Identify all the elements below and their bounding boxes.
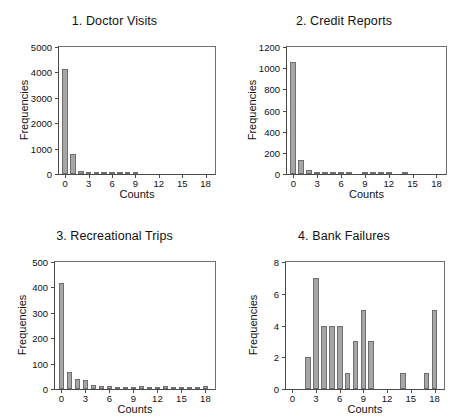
x-tick-label: 0 [290,393,295,404]
bar [337,326,343,390]
bar [203,386,209,389]
y-tick-label: 2 [231,352,279,363]
x-tick-mark [135,175,136,178]
bar [70,154,76,174]
y-tick-mark [55,47,58,48]
x-tick-mark [413,175,414,178]
x-tick-mark [436,175,437,178]
y-tick-mark [55,149,58,150]
y-tick-mark [283,89,286,90]
bar-series [286,262,444,389]
x-tick-mark [157,390,158,393]
x-tick-mark [61,390,62,393]
x-tick-label: 9 [361,393,366,404]
bar [290,62,296,174]
bar [362,172,368,174]
x-tick-label: 15 [176,393,187,404]
x-tick-mark [205,390,206,393]
x-tick-label: 15 [406,393,417,404]
y-tick-label: 6 [231,288,279,299]
bar [94,172,100,174]
y-tick-label: 1000 [231,63,280,74]
x-tick-mark [159,175,160,178]
plot-area [285,261,445,390]
plot-area [54,261,216,390]
bar [75,379,81,389]
y-tick-layer: 02468 [229,205,285,420]
bar [62,69,68,174]
y-tick-label: 0 [2,384,48,395]
y-tick-label: 4000 [2,67,52,78]
x-tick-label: 15 [177,178,188,189]
x-tick-label: 18 [429,393,440,404]
bar [91,385,97,389]
bar [305,357,311,389]
y-tick-mark [282,357,285,358]
y-tick-mark [51,313,54,314]
x-tick-label: 6 [338,178,343,189]
y-tick-label: 4 [231,320,279,331]
x-tick-mark [293,175,294,178]
x-tick-mark [316,390,317,393]
y-tick-label: 400 [231,126,280,137]
y-tick-label: 100 [2,358,48,369]
x-tick-mark [109,390,110,393]
x-tick-label: 18 [200,178,211,189]
bar [195,387,201,389]
x-tick-mark [340,390,341,393]
bar [83,380,89,389]
bar [155,387,161,389]
y-tick-label: 3000 [2,92,52,103]
bar [107,386,113,389]
x-tick-mark [435,390,436,393]
chart-panel-2: 2. Credit ReportsFrequenciesCounts020040… [229,0,459,205]
bar [59,283,65,389]
bar [400,373,406,389]
x-tick-layer: 0369121518 [287,175,446,195]
x-tick-label: 0 [291,178,296,189]
y-tick-label: 200 [231,147,280,158]
x-tick-label: 3 [313,393,318,404]
chart-panel-4: 4. Bank FailuresFrequenciesCounts0246803… [229,205,459,420]
bar [322,172,328,174]
y-tick-label: 0 [231,384,279,395]
x-tick-label: 15 [407,178,418,189]
y-tick-mark [283,68,286,69]
x-tick-mark [182,175,183,178]
x-tick-label: 3 [315,178,320,189]
y-tick-layer: 0100200300400500 [0,205,54,420]
bar [329,326,335,390]
bar [386,172,392,174]
x-tick-mark [317,175,318,178]
bar [125,172,131,174]
chart-panel-3: 3. Recreational TripsFrequenciesCounts01… [0,205,229,420]
bar [313,278,319,389]
bar [314,172,320,174]
y-tick-mark [51,338,54,339]
x-tick-mark [341,175,342,178]
y-tick-label: 2000 [2,118,52,129]
bar [115,387,121,389]
x-tick-label: 18 [200,393,211,404]
bar [330,172,336,174]
bar [101,172,107,174]
y-tick-label: 500 [2,257,48,268]
bar [131,387,137,389]
x-tick-mark [85,390,86,393]
bar [338,172,344,174]
y-tick-mark [282,262,285,263]
x-tick-mark [133,390,134,393]
x-tick-mark [65,175,66,178]
bar [163,386,169,389]
x-tick-mark [292,390,293,393]
bar [424,373,430,389]
y-tick-mark [282,389,285,390]
x-tick-mark [389,175,390,178]
x-tick-label: 6 [107,393,112,404]
x-tick-mark [387,390,388,393]
y-tick-label: 5000 [2,42,52,53]
bar [378,172,384,174]
x-tick-layer: 0369121518 [59,175,215,195]
y-tick-mark [283,111,286,112]
bar [147,387,153,389]
